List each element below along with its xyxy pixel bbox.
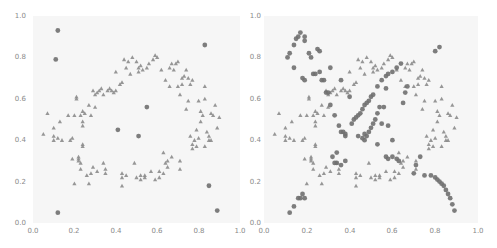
circle-marker [379, 121, 384, 126]
triangle-marker [397, 171, 401, 175]
triangle-marker [446, 111, 450, 115]
triangle-marker [427, 142, 431, 146]
triangle-marker [358, 173, 362, 177]
triangle-marker [354, 80, 358, 84]
circle-marker [309, 55, 314, 60]
triangle-marker [418, 74, 422, 78]
circle-marker [326, 90, 331, 95]
triangle-marker [384, 169, 388, 173]
triangle-marker [422, 76, 426, 80]
triangle-marker [305, 182, 309, 186]
circle-marker [343, 159, 348, 164]
triangle-marker [440, 97, 444, 101]
right-scatter-markers [0, 0, 497, 248]
triangle-marker [354, 171, 358, 175]
triangle-marker [307, 97, 311, 101]
circle-marker [446, 192, 451, 197]
triangle-marker [328, 169, 332, 173]
circle-marker [386, 156, 391, 161]
triangle-marker [335, 93, 339, 97]
circle-marker [373, 117, 378, 122]
triangle-marker [403, 66, 407, 70]
circle-marker [302, 78, 307, 83]
triangle-marker [318, 173, 322, 177]
circle-marker [300, 192, 305, 197]
circle-marker [429, 173, 434, 178]
triangle-marker [305, 113, 309, 117]
circle-marker [360, 107, 365, 112]
triangle-marker [354, 184, 358, 188]
triangle-marker [358, 66, 362, 70]
triangle-marker [392, 169, 396, 173]
triangle-marker [311, 167, 315, 171]
circle-marker [403, 90, 408, 95]
circle-marker [287, 51, 292, 56]
triangle-marker [324, 165, 328, 169]
triangle-marker [303, 136, 307, 140]
circle-marker [343, 134, 348, 139]
triangle-marker [273, 132, 277, 136]
circle-marker [386, 123, 391, 128]
triangle-marker [367, 161, 371, 165]
circle-marker [450, 202, 455, 207]
triangle-marker [292, 138, 296, 142]
triangle-marker [401, 159, 405, 163]
triangle-marker [422, 99, 426, 103]
triangle-marker [399, 78, 403, 82]
circle-marker [287, 210, 292, 215]
circle-marker [302, 38, 307, 43]
triangle-marker [298, 113, 302, 117]
circle-marker [285, 55, 290, 60]
circle-marker [334, 161, 339, 166]
triangle-marker [360, 59, 364, 63]
triangle-marker [373, 64, 377, 68]
triangle-marker [412, 84, 416, 88]
triangle-marker [442, 130, 446, 134]
circle-marker [444, 187, 449, 192]
circle-marker [396, 159, 401, 164]
circle-marker [441, 183, 446, 188]
circle-marker [422, 173, 427, 178]
triangle-marker [341, 86, 345, 90]
triangle-marker [392, 175, 396, 179]
circle-marker [330, 154, 335, 159]
circle-marker [296, 34, 301, 39]
triangle-marker [313, 109, 317, 113]
circle-marker [317, 69, 322, 74]
circle-marker [334, 150, 339, 155]
circle-marker [390, 138, 395, 143]
triangle-marker [420, 107, 424, 111]
triangle-marker [373, 177, 377, 181]
circle-marker [313, 72, 318, 77]
triangle-marker [320, 182, 324, 186]
circle-marker [292, 65, 297, 70]
triangle-marker [365, 55, 369, 59]
triangle-marker [455, 115, 459, 119]
circle-marker [375, 84, 380, 89]
triangle-marker [337, 171, 341, 175]
triangle-marker [388, 53, 392, 57]
triangle-marker [397, 151, 401, 155]
triangle-marker [369, 175, 373, 179]
triangle-marker [311, 113, 315, 117]
circle-marker [418, 154, 423, 159]
circle-marker [437, 45, 442, 50]
circle-marker [328, 103, 333, 108]
triangle-marker [356, 57, 360, 61]
circle-marker [381, 105, 386, 110]
triangle-marker [452, 126, 456, 130]
triangle-marker [283, 138, 287, 142]
circle-marker [347, 94, 352, 99]
triangle-marker [420, 68, 424, 72]
triangle-marker [382, 62, 386, 66]
triangle-marker [429, 138, 433, 142]
triangle-marker [309, 155, 313, 159]
circle-marker [292, 43, 297, 48]
triangle-marker [440, 84, 444, 88]
circle-marker [433, 49, 438, 54]
right-scatter-panel: 1.0 0.8 0.6 0.4 0.2 0.0 0.0 0.2 0.4 0.6 … [0, 0, 497, 248]
circle-marker [339, 78, 344, 83]
circle-marker [377, 105, 382, 110]
circle-marker [360, 136, 365, 141]
circle-marker [328, 65, 333, 70]
